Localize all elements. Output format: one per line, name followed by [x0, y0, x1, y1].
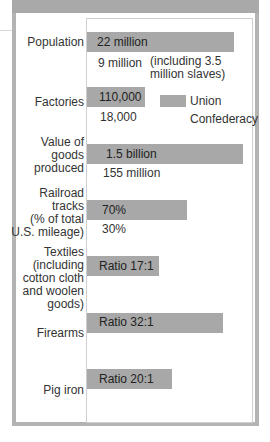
- label-line: produced: [34, 162, 84, 175]
- category-label-value: Value of goods produced: [34, 136, 84, 175]
- value-confederacy-population: 9 million: [98, 56, 142, 70]
- bar-value-union-value: 1.5 billion: [106, 147, 157, 161]
- category-label-population: Population: [27, 36, 84, 49]
- legend-label-confederacy: Confederacy: [190, 112, 258, 126]
- label-line: U.S. mileage): [11, 226, 84, 239]
- bar-value-union-population: 22 million: [97, 35, 148, 49]
- bar-value-union-firearms: Ratio 32:1: [99, 315, 154, 329]
- population-note: (including 3.5 million slaves): [150, 55, 225, 81]
- category-label-pig-iron: Pig iron: [43, 384, 84, 397]
- value-confederacy-factories: 18,000: [100, 110, 137, 124]
- divider-line: [0, 30, 12, 31]
- legend-label-union: Union: [190, 94, 221, 108]
- value-confederacy-railroad: 30%: [102, 222, 126, 236]
- legend-swatch-union: [160, 95, 186, 107]
- category-label-factories: Factories: [35, 96, 84, 109]
- category-label-textiles: Textiles (including cotton cloth and woo…: [23, 246, 84, 311]
- bar-value-union-textiles: Ratio 17:1: [99, 259, 154, 273]
- bar-value-union-factories: 110,000: [99, 90, 142, 104]
- note-line: million slaves): [150, 68, 225, 81]
- bar-value-union-pig-iron: Ratio 20:1: [99, 372, 154, 386]
- category-label-firearms: Firearms: [37, 327, 84, 340]
- header-band: [12, 0, 259, 13]
- bar-value-union-railroad: 70%: [102, 203, 126, 217]
- value-confederacy-value: 155 million: [103, 166, 160, 180]
- label-line: goods): [23, 298, 84, 311]
- category-label-railroad: Railroad tracks (% of total U.S. mileage…: [11, 187, 84, 239]
